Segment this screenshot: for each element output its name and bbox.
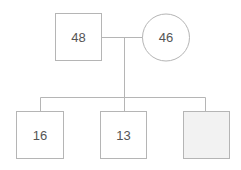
child-3-node xyxy=(184,112,230,159)
child-2-node: 13 xyxy=(101,112,147,159)
child-2-age: 13 xyxy=(116,128,130,143)
family-tree-diagram: 48 46 16 13 xyxy=(0,0,241,170)
mother-age: 46 xyxy=(159,30,173,45)
child-1-node: 16 xyxy=(17,112,64,159)
father-node: 48 xyxy=(56,14,102,61)
father-age: 48 xyxy=(71,30,85,45)
child-1-age: 16 xyxy=(33,128,47,143)
mother-node: 46 xyxy=(143,14,190,61)
